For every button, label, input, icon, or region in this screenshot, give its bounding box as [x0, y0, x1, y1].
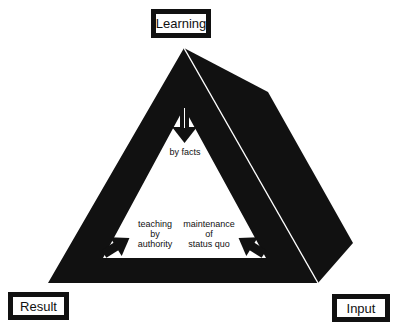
result-label: Result: [20, 299, 57, 314]
triangle-diagram: [0, 0, 399, 332]
learning-label: Learning: [156, 16, 207, 31]
input-label: Input: [347, 301, 376, 316]
maintenance-of-status-quo-label: maintenance of status quo: [176, 219, 242, 249]
input-box: Input: [332, 294, 390, 322]
result-box: Result: [8, 292, 69, 320]
learning-box: Learning: [151, 9, 211, 38]
teaching-by-authority-label: teaching by authority: [130, 219, 180, 249]
by-facts-label: by facts: [160, 147, 210, 157]
